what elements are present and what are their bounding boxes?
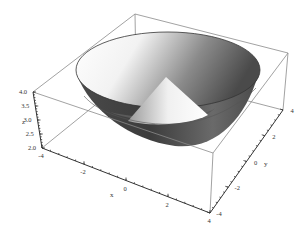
y-axis-minor-tick	[274, 120, 276, 121]
x-axis-tick-label: -4	[38, 152, 44, 159]
y-axis-minor-tick	[227, 187, 229, 188]
z-axis-tick-label: 2.5	[26, 130, 34, 137]
y-axis-minor-tick	[282, 110, 284, 111]
z-axis-tick-label: 4.0	[19, 88, 27, 95]
x-axis-tick-label: -2	[80, 168, 85, 175]
y-axis-minor-tick	[209, 213, 211, 214]
y-axis-minor-tick	[252, 151, 254, 152]
z-axis-label: z	[22, 118, 25, 126]
y-axis-tick-label: 2	[272, 133, 275, 140]
z-axis-tick-label: 2.0	[28, 144, 36, 151]
x-axis-tick-label: 2	[165, 201, 168, 208]
y-axis-minor-tick	[234, 176, 236, 177]
box-edge	[210, 153, 213, 213]
y-axis-minor-tick	[241, 166, 243, 167]
surface-plot-3d: 2.02.53.03.54.0 z -4-2024 x -4-2024 y	[0, 0, 302, 233]
y-axis-minor-tick	[219, 197, 221, 198]
y-axis-minor-tick	[216, 202, 218, 203]
y-axis-minor-tick	[245, 161, 247, 162]
y-axis-label: y	[264, 160, 268, 168]
x-axis-label: x	[110, 191, 114, 199]
y-axis-minor-tick	[260, 140, 262, 141]
y-axis-minor-tick	[263, 135, 265, 136]
y-axis-minor-tick	[230, 182, 232, 183]
y-axis-minor-tick	[223, 192, 225, 193]
y-axis-tick-label: -4	[216, 210, 222, 217]
y-axis-minor-tick	[238, 171, 240, 172]
z-axis-tick-label: 3.5	[21, 102, 29, 109]
y-axis-minor-tick	[267, 130, 269, 131]
y-axis-tick-label: 4	[290, 107, 294, 114]
y-axis-minor-tick	[249, 156, 251, 157]
y-axis-minor-tick	[271, 125, 273, 126]
y-axis-tick-label: 0	[254, 159, 257, 166]
box-edge	[283, 53, 288, 110]
y-axis-tick-label: -2	[235, 184, 240, 191]
x-axis: -4-2024 x	[38, 145, 211, 224]
y-axis-minor-tick	[278, 115, 280, 116]
x-axis-tick-label: 0	[123, 185, 126, 192]
y-axis-minor-tick	[212, 207, 214, 208]
z-axis: 2.02.53.03.54.0 z	[19, 88, 45, 151]
x-axis-tick-label: 4	[207, 217, 211, 224]
y-axis-minor-tick	[256, 146, 258, 147]
